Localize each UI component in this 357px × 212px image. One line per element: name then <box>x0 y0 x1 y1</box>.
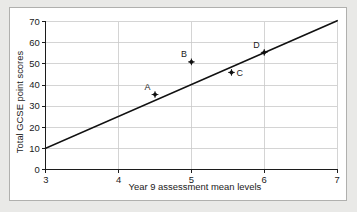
y-axis-ticks: 010203040506070 <box>29 16 45 174</box>
y-axis-title: Total GCSE point scores <box>14 51 25 154</box>
data-points-group: ABCD <box>145 40 268 98</box>
data-point: C <box>228 68 243 78</box>
y-tick-label: 40 <box>29 79 39 90</box>
vertical-gridlines <box>119 22 337 169</box>
y-tick-label: 50 <box>29 58 39 69</box>
y-tick-label: 10 <box>29 143 39 154</box>
point-label: D <box>253 40 259 50</box>
x-tick-label: 4 <box>116 174 121 185</box>
x-axis-title: Year 9 assessment mean levels <box>129 181 262 192</box>
y-tick-label: 60 <box>29 37 39 48</box>
scatter-plot: ABCD 010203040506070 34567 Year 9 assess… <box>10 8 346 200</box>
y-tick-label: 0 <box>35 164 40 175</box>
y-tick-label: 30 <box>29 101 39 112</box>
point-label: B <box>181 49 187 59</box>
data-point: B <box>181 49 195 65</box>
y-tick-label: 20 <box>29 122 39 133</box>
x-tick-label: 3 <box>43 174 48 185</box>
chart-panel: ABCD 010203040506070 34567 Year 9 assess… <box>9 7 347 201</box>
x-tick-label: 7 <box>334 174 339 185</box>
data-point: D <box>253 40 267 56</box>
x-tick-label: 6 <box>262 174 267 185</box>
data-point: A <box>145 82 159 98</box>
point-label: A <box>145 82 151 92</box>
y-tick-label: 70 <box>29 16 39 27</box>
point-label: C <box>236 68 243 78</box>
